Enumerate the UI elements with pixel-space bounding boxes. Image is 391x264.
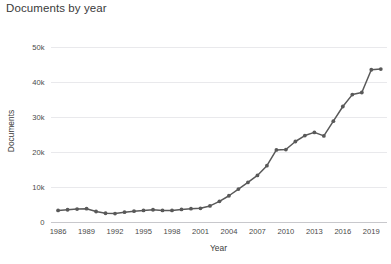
x-axis-tick-label: 2016 (334, 227, 351, 236)
x-axis-tick-label: 2007 (249, 227, 266, 236)
data-point-marker[interactable] (113, 212, 117, 216)
data-point-marker[interactable] (265, 164, 269, 168)
data-point-marker[interactable] (189, 207, 193, 211)
y-axis-tick-label: 30k (32, 113, 44, 122)
data-point-marker[interactable] (322, 134, 326, 138)
x-axis-tick-label: 1989 (78, 227, 95, 236)
y-axis-tick-label: 40k (32, 78, 44, 87)
y-axis-title: Documents (6, 110, 16, 152)
data-point-marker[interactable] (360, 91, 364, 95)
data-point-marker[interactable] (312, 131, 316, 135)
y-axis-ticks: 010k20k30k40k50k (32, 43, 44, 227)
x-axis-tick-label: 1986 (50, 227, 67, 236)
data-point-marker[interactable] (208, 204, 212, 208)
documents-by-year-chart: Documents by year 010k20k30k40k50k 19861… (0, 0, 391, 264)
data-point-marker[interactable] (218, 199, 222, 203)
data-point-marker[interactable] (227, 194, 231, 198)
data-point-marker[interactable] (170, 209, 174, 213)
x-axis-tick-label: 2019 (363, 227, 380, 236)
data-point-marker[interactable] (132, 209, 136, 213)
x-axis-title: Year (210, 243, 227, 253)
y-axis-tick-label: 10k (32, 183, 44, 192)
x-axis-tick-label: 1998 (164, 227, 181, 236)
x-axis-tick-label: 1995 (135, 227, 152, 236)
x-axis-tick-label: 2010 (277, 227, 294, 236)
data-point-marker[interactable] (369, 68, 373, 72)
data-point-marker[interactable] (85, 207, 89, 211)
series-line (58, 69, 381, 214)
data-point-marker[interactable] (180, 208, 184, 212)
chart-plot-area: 010k20k30k40k50k 19861989199219951998200… (0, 0, 391, 264)
data-point-marker[interactable] (123, 210, 127, 214)
data-point-marker[interactable] (341, 105, 345, 109)
data-point-marker[interactable] (256, 174, 260, 178)
data-point-marker[interactable] (293, 140, 297, 144)
data-point-marker[interactable] (161, 209, 165, 213)
gridlines (51, 47, 387, 222)
y-axis-tick-label: 50k (32, 43, 44, 52)
data-point-marker[interactable] (275, 148, 279, 152)
x-axis-tick-label: 2013 (306, 227, 323, 236)
x-axis-ticks: 1986198919921995199820012004200720102013… (50, 227, 380, 236)
x-axis-tick-label: 2001 (192, 227, 209, 236)
data-point-marker[interactable] (350, 93, 354, 97)
data-point-marker[interactable] (331, 119, 335, 123)
data-point-marker[interactable] (56, 209, 60, 213)
x-axis-tick-label: 1992 (107, 227, 124, 236)
data-point-marker[interactable] (246, 181, 250, 185)
data-point-marker[interactable] (303, 134, 307, 138)
data-point-marker[interactable] (66, 208, 70, 212)
data-point-marker[interactable] (75, 207, 79, 211)
data-point-marker[interactable] (142, 209, 146, 213)
y-axis-tick-label: 20k (32, 148, 44, 157)
x-axis-tick-label: 2004 (220, 227, 237, 236)
data-series-documents (56, 67, 383, 215)
data-point-marker[interactable] (237, 187, 241, 191)
data-point-marker[interactable] (94, 210, 98, 214)
data-point-marker[interactable] (104, 211, 108, 215)
data-point-marker[interactable] (284, 148, 288, 152)
y-axis-tick-label: 0 (40, 218, 44, 227)
data-point-marker[interactable] (151, 208, 155, 212)
data-point-marker[interactable] (199, 206, 203, 210)
data-point-marker[interactable] (379, 67, 383, 71)
